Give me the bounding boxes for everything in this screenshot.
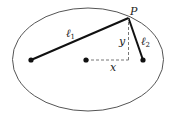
label-x: x: [110, 61, 117, 74]
label-l2: ℓ2: [141, 35, 150, 49]
label-P: P: [129, 5, 138, 18]
segment-l1: [31, 18, 129, 60]
label-y: y: [118, 35, 126, 48]
left-focus-point: [28, 57, 33, 62]
label-l2-sub: 2: [146, 41, 150, 49]
label-l1-sub: 1: [71, 33, 75, 41]
label-l1: ℓ1: [66, 27, 75, 41]
center-point: [83, 57, 88, 62]
right-focus-point: [140, 57, 145, 62]
ellipse-diagram: P ℓ1 ℓ2 y x: [0, 0, 171, 114]
